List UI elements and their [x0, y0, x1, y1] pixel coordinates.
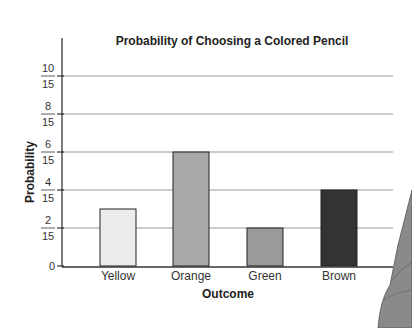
x-tick-label: Brown — [322, 269, 356, 283]
y-tick-numerator: 8 — [45, 100, 51, 112]
x-tick-label: Green — [248, 269, 281, 283]
x-tick-labels: YellowOrangeGreenBrown — [101, 269, 356, 283]
x-tick-label: Yellow — [101, 269, 136, 283]
y-tick-labels: 02154156158151015 — [41, 62, 64, 272]
chart-title: Probability of Choosing a Colored Pencil — [116, 34, 349, 48]
y-tick-label: 0 — [49, 260, 55, 272]
y-axis-label: Probability — [23, 141, 37, 203]
bars — [100, 152, 357, 266]
y-tick-denominator: 15 — [42, 78, 54, 90]
bar-yellow — [100, 209, 136, 266]
y-tick-numerator: 10 — [42, 62, 54, 74]
y-tick-numerator: 2 — [45, 214, 51, 226]
bar-orange — [173, 152, 209, 266]
y-tick-numerator: 6 — [45, 138, 51, 150]
y-tick-denominator: 15 — [42, 192, 54, 204]
bar-brown — [321, 190, 357, 266]
pencil-illustration — [378, 190, 412, 328]
y-tick-numerator: 4 — [45, 176, 51, 188]
y-tick-denominator: 15 — [42, 154, 54, 166]
bar-chart: Probability of Choosing a Colored Pencil… — [0, 0, 412, 328]
bar-green — [247, 228, 283, 266]
y-tick-denominator: 15 — [42, 116, 54, 128]
x-tick-label: Orange — [171, 269, 211, 283]
y-tick-denominator: 15 — [42, 230, 54, 242]
x-axis-label: Outcome — [202, 287, 254, 301]
